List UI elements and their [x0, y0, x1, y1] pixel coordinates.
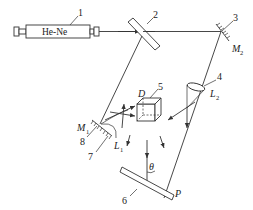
label-3: 3 [233, 12, 238, 23]
beam-splitter: 2 [128, 9, 160, 50]
label-6: 6 [122, 195, 127, 206]
oblique-beam-arrow [160, 136, 164, 148]
svg-text:2: 2 [240, 49, 243, 56]
svg-text:1: 1 [86, 128, 89, 135]
beam-m2-to-plate [164, 32, 221, 199]
svg-text:M: M [76, 122, 86, 133]
lens-l2: 4 L 2 [168, 71, 222, 128]
lens-l1: 7 L 1 [88, 104, 135, 162]
cube-d: 5 D [137, 81, 163, 121]
label-7: 7 [88, 151, 93, 162]
label-p: P [174, 188, 181, 199]
laser-label: He-Ne [42, 27, 67, 37]
label-2: 2 [153, 9, 158, 20]
laser-he-ne: He-Ne 1 [14, 7, 99, 38]
label-theta: θ [149, 161, 154, 172]
beam-splitter-to-m1 [100, 36, 142, 124]
svg-text:2: 2 [216, 94, 219, 101]
label-8: 8 [80, 136, 85, 147]
svg-text:L: L [209, 88, 216, 99]
label-d: D [137, 88, 146, 99]
label-5: 5 [158, 81, 163, 92]
label-1: 1 [78, 7, 83, 18]
svg-text:1: 1 [120, 146, 123, 153]
svg-text:L: L [113, 140, 120, 151]
optical-diagram: He-Ne 1 2 3 M 2 4 L 2 [0, 0, 253, 210]
label-4: 4 [217, 71, 222, 82]
